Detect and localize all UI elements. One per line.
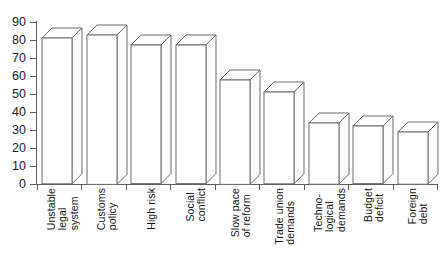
x-axis-category-label-line: conflict — [196, 188, 207, 221]
x-axis-category-labels: UnstablelegalsystemCustomspolicyHigh ris… — [0, 188, 445, 264]
x-axis-category-label: High risk — [146, 188, 157, 230]
x-axis-category-label-line: demands — [336, 188, 347, 232]
bar — [308, 112, 350, 185]
x-axis-category-label-line: demands — [285, 188, 296, 245]
x-axis-category-label: Budgetdeficit — [363, 188, 386, 222]
bar — [263, 81, 305, 185]
x-axis-category-label-line: policy — [107, 188, 118, 230]
x-axis-category-label: Foreigndebt — [407, 188, 430, 224]
x-axis-category-label: Techno-logicaldemands — [313, 188, 347, 232]
x-axis-category-label-line: debt — [418, 188, 429, 224]
x-axis-category-label-line: system — [69, 188, 80, 230]
bar-chart: 0102030405060708090 — [0, 0, 445, 264]
x-axis-category-label-line: High risk — [146, 188, 157, 230]
x-axis-category-label: Trade uniondemands — [274, 188, 297, 245]
x-axis-category-label: Socialconflict — [185, 188, 208, 221]
bar — [41, 27, 83, 185]
bar — [130, 34, 172, 185]
x-axis-category-label: Slow paceof reform — [230, 188, 253, 237]
bar — [86, 24, 128, 185]
x-axis-category-label: Unstablelegalsystem — [46, 188, 80, 230]
x-axis-category-label-line: deficit — [374, 188, 385, 222]
x-axis-category-label-line: of reform — [241, 188, 252, 237]
bar — [397, 121, 439, 185]
bar — [175, 34, 217, 185]
bar — [352, 115, 394, 185]
x-axis-category-label: Customspolicy — [96, 188, 119, 230]
bar — [219, 69, 261, 185]
